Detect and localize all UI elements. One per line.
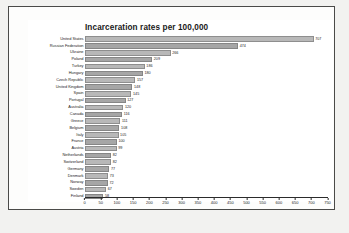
bar-value-label: 266 xyxy=(171,50,179,56)
bar-row: Sweden67 xyxy=(28,187,333,193)
bar-track: 209 xyxy=(85,57,328,63)
bar-track: 108 xyxy=(85,125,328,131)
category-label: France xyxy=(14,138,84,144)
category-label: Russian Federation xyxy=(14,43,84,49)
bar-track: 105 xyxy=(85,132,328,138)
x-tick: 150 xyxy=(130,198,137,205)
x-tick: 200 xyxy=(146,198,153,205)
x-tick-label: 450 xyxy=(227,200,234,205)
bar-value-label: 707 xyxy=(314,36,322,42)
x-tick: 700 xyxy=(308,198,315,205)
bar-value-label: 180 xyxy=(143,70,151,76)
screenshot-page: Incarceration rates per 100,000 United S… xyxy=(0,0,349,233)
x-tick-label: 250 xyxy=(162,200,169,205)
bar-value-label: 67 xyxy=(106,186,112,192)
x-tick: 50 xyxy=(98,198,102,205)
bar-row: Portugal127 xyxy=(28,98,333,104)
x-tick: 0 xyxy=(83,198,85,205)
chart-panel: Incarceration rates per 100,000 United S… xyxy=(28,20,333,202)
bar xyxy=(85,173,109,179)
bar-row: Canada116 xyxy=(28,111,333,117)
bar-value-label: 116 xyxy=(122,111,129,117)
bar-value-label: 209 xyxy=(152,56,160,62)
bar-value-label: 105 xyxy=(119,132,127,138)
bar-value-label: 474 xyxy=(238,43,246,49)
x-tick: 500 xyxy=(243,198,250,205)
bar-track: 707 xyxy=(85,36,328,42)
bar-row: United Kingdom148 xyxy=(28,84,333,90)
bar-row: United States707 xyxy=(28,36,333,42)
x-tick-label: 300 xyxy=(178,200,185,205)
bar-row: France100 xyxy=(28,139,333,145)
bar-track: 111 xyxy=(85,118,328,124)
bar xyxy=(85,159,112,165)
category-label: Switzerland xyxy=(14,159,84,165)
bar-row: Netherlands82 xyxy=(28,152,333,158)
bar-track: 116 xyxy=(85,111,328,117)
bar-track: 157 xyxy=(85,77,328,83)
x-tick: 650 xyxy=(292,198,299,205)
x-tick-label: 600 xyxy=(276,200,283,205)
bar-rows: United States707Russian Federation474Ukr… xyxy=(28,36,333,200)
bar xyxy=(85,57,153,63)
category-label: Hungary xyxy=(14,70,84,76)
bar-value-label: 186 xyxy=(145,63,153,69)
category-label: Greece xyxy=(14,118,84,124)
bar-row: Greece111 xyxy=(28,118,333,124)
bar-value-label: 82 xyxy=(111,159,117,165)
bar-track: 266 xyxy=(85,50,328,56)
x-tick-label: 750 xyxy=(324,200,331,205)
bar-track: 82 xyxy=(85,152,328,158)
category-label: Italy xyxy=(14,132,84,138)
bar xyxy=(85,105,124,111)
bar xyxy=(85,71,143,77)
chart-paper-frame: Incarceration rates per 100,000 United S… xyxy=(8,6,335,210)
bar xyxy=(85,118,121,124)
bar-value-label: 127 xyxy=(126,97,134,103)
bar-value-label: 145 xyxy=(131,91,139,97)
bar-track: 148 xyxy=(85,84,328,90)
x-tick-label: 350 xyxy=(195,200,202,205)
category-label: Finland xyxy=(14,193,84,199)
x-tick: 750 xyxy=(324,198,331,205)
x-tick: 400 xyxy=(211,198,218,205)
category-label: Belgium xyxy=(14,125,84,131)
bar-track: 145 xyxy=(85,91,328,97)
x-tick-label: 0 xyxy=(83,200,85,205)
bar xyxy=(85,153,112,159)
bar-value-label: 111 xyxy=(120,118,127,124)
x-tick: 600 xyxy=(276,198,283,205)
bar-row: Germany77 xyxy=(28,166,333,172)
x-tick: 350 xyxy=(195,198,202,205)
bar-value-label: 72 xyxy=(108,180,114,186)
bar-track: 186 xyxy=(85,63,328,69)
category-label: Germany xyxy=(14,166,84,172)
x-tick-label: 200 xyxy=(146,200,153,205)
x-tick-label: 500 xyxy=(243,200,250,205)
category-label: Australia xyxy=(14,104,84,110)
bar xyxy=(85,132,119,138)
bar xyxy=(85,84,133,90)
bar-row: Poland209 xyxy=(28,57,333,63)
bar xyxy=(85,146,117,152)
category-label: United Kingdom xyxy=(14,84,84,90)
bar-row: Ukraine266 xyxy=(28,50,333,56)
bar-track: 67 xyxy=(85,187,328,193)
category-label: Norway xyxy=(14,179,84,185)
category-label: Austria xyxy=(14,145,84,151)
bar-track: 180 xyxy=(85,70,328,76)
bar-row: Italy105 xyxy=(28,132,333,138)
bar-track: 73 xyxy=(85,173,328,179)
x-tick-label: 100 xyxy=(114,200,121,205)
bar xyxy=(85,64,145,70)
bar-row: Spain145 xyxy=(28,91,333,97)
bar xyxy=(85,36,314,42)
bar-track: 100 xyxy=(85,139,328,145)
bar-row: Austria99 xyxy=(28,146,333,152)
x-tick: 300 xyxy=(178,198,185,205)
x-tick-label: 50 xyxy=(98,200,102,205)
x-tick: 550 xyxy=(259,198,266,205)
bar xyxy=(85,77,136,83)
bar-track: 82 xyxy=(85,159,328,165)
bar-row: Switzerland82 xyxy=(28,159,333,165)
